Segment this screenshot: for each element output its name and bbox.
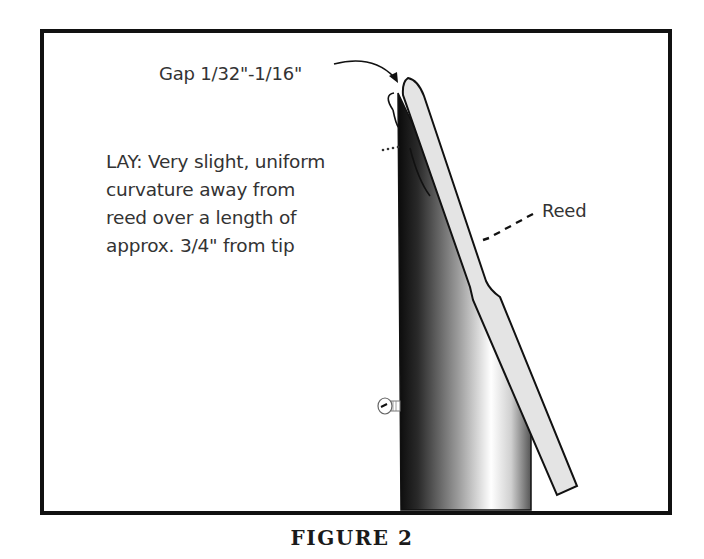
lay-line-2: curvature away from — [106, 176, 325, 204]
reed-leader-line — [483, 214, 533, 240]
lay-line-3: reed over a length of — [106, 204, 325, 232]
lay-line-4: approx. 3/4" from tip — [106, 232, 325, 260]
lay-leader-line — [382, 146, 400, 152]
lay-line-1: LAY: Very slight, uniform — [106, 148, 325, 176]
reed-label: Reed — [542, 197, 586, 225]
ligature-screw-icon — [378, 398, 400, 414]
figure-caption: FIGURE 2 — [0, 526, 704, 550]
gap-label: Gap 1/32"-1/16" — [159, 60, 302, 88]
mouthpiece-body — [398, 93, 531, 510]
gap-arrow — [334, 61, 398, 83]
mouthpiece-reed-illustration — [0, 0, 704, 559]
lay-label: LAY: Very slight, uniform curvature away… — [106, 148, 325, 260]
